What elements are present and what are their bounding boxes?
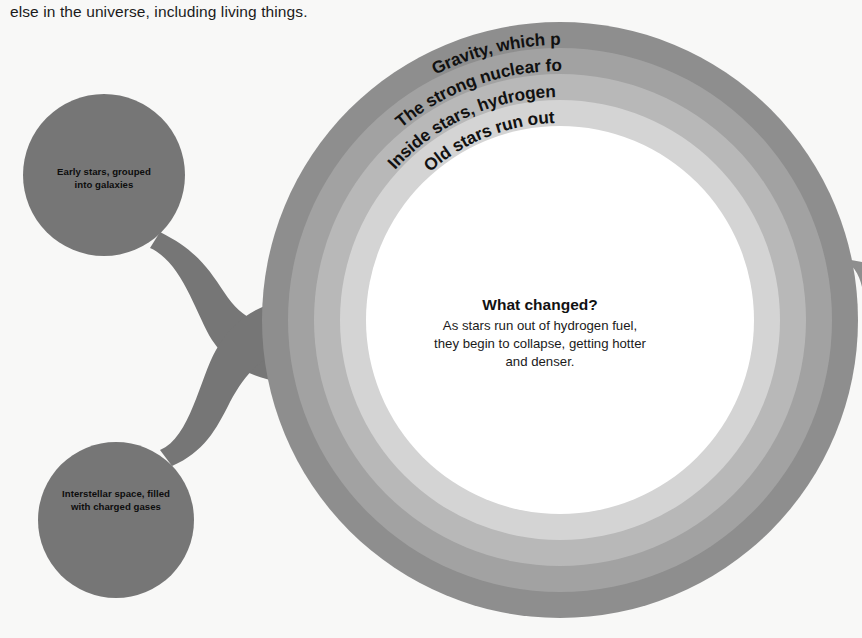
nested-circles-diagram: Gravity, which pulls matter together The… [0, 0, 862, 638]
intro-paragraph: else in the universe, including living t… [10, 0, 308, 24]
lobe-circle-interstellar [38, 442, 194, 598]
lobe-label-early-stars-line1: Early stars, grouped [57, 166, 151, 177]
center-body-line1: As stars run out of hydrogen fuel, [443, 318, 637, 333]
center-body-line2: they begin to collapse, getting hotter [434, 336, 646, 351]
lobe-label-interstellar-line2: with charged gases [70, 501, 161, 512]
center-body-line3: and denser. [506, 354, 575, 369]
diagram-canvas: else in the universe, including living t… [0, 0, 862, 638]
lobe-label-early-stars-line2: into galaxies [75, 179, 134, 190]
center-title: What changed? [482, 296, 597, 313]
lobe-label-interstellar-line1: Interstellar space, filled [62, 488, 170, 499]
